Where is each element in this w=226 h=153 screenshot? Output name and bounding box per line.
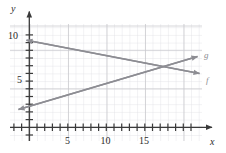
grid-lines [10, 24, 202, 141]
y-tick-label-10: 10 [8, 30, 18, 41]
x-tick-label-15: 15 [139, 135, 149, 146]
graph-figure: y x 10 5 5 10 15 g f [0, 0, 226, 153]
series-label-f: f [206, 75, 210, 85]
y-tick-label-5: 5 [17, 74, 22, 85]
x-tick-label-10: 10 [101, 135, 111, 146]
series-label-g: g [204, 50, 209, 60]
x-axis-label: x [209, 136, 215, 147]
y-axis-label: y [10, 3, 16, 14]
x-tick-label-5: 5 [65, 135, 70, 146]
coordinate-plane-svg: y x 10 5 5 10 15 g f [0, 0, 226, 153]
